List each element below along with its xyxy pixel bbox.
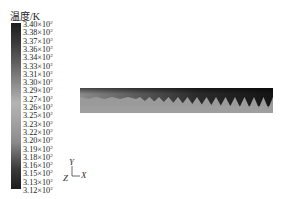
contour-graphic [80,88,273,113]
temperature-contour-plot [80,88,273,113]
colorbar-tick-label: 3.12×102 [23,185,53,195]
axis-triad: Y X Z [60,160,90,182]
axis-y-label: Y [69,157,74,167]
faint-header-text [95,0,245,6]
axis-z-label: Z [63,173,68,183]
axis-x-label: X [81,170,87,180]
colorbar [11,23,21,189]
colorbar-tick-labels: 3.40×1023.38×1023.37×1023.36×1023.34×102… [23,21,63,191]
